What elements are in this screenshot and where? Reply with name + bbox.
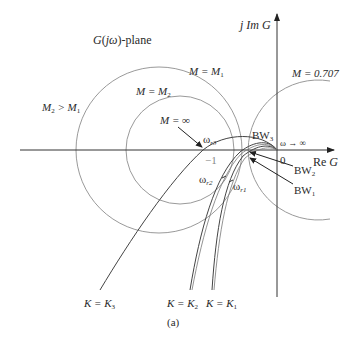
m-infinity-label: M = ∞	[160, 115, 190, 126]
m-infinity-arrow	[178, 127, 202, 147]
omega-infinity-label: ω → ∞	[280, 139, 306, 148]
m2-label: M = M2	[136, 86, 171, 99]
origin-label: 0	[280, 155, 286, 166]
bw3-label: BW3	[252, 130, 273, 143]
k2-label: K = K2	[167, 298, 198, 311]
caption: (a)	[167, 317, 179, 328]
bw2-label: BW2	[294, 165, 315, 178]
real-axis-label: Re G	[313, 156, 338, 168]
m1-label: M = M1	[189, 66, 224, 79]
bw1-arrow	[250, 158, 293, 184]
omega-r3-label: ωr3	[203, 134, 216, 147]
bw1-label: BW1	[294, 185, 315, 198]
omega-r1-label: ωr1	[233, 181, 246, 194]
curve-k2	[190, 143, 277, 290]
nyquist-m-circle-diagram: G(jω)-plane j Im G Re G 0 −1 M = M1 M = …	[0, 0, 356, 345]
k1-label: K = K1	[206, 298, 237, 311]
plane-label: G(jω)-plane	[93, 34, 151, 46]
m0707-label: M = 0.707	[292, 68, 339, 79]
k3-label: K = K3	[84, 298, 115, 311]
curve-k1	[212, 146, 277, 290]
imag-axis-label: j Im G	[240, 19, 271, 31]
m-relation-label: M2 > M1	[42, 102, 80, 115]
omega-r2-label: ωr2	[199, 174, 212, 187]
bw2-arrow	[250, 152, 293, 166]
minus-one-label: −1	[205, 155, 217, 166]
